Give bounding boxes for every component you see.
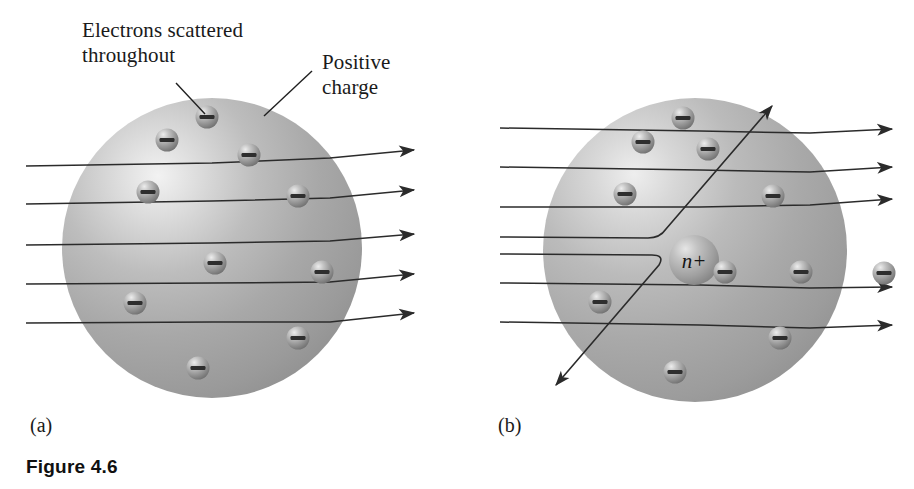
electron xyxy=(311,261,334,284)
electrons-scattered-label: Electrons scattered throughout xyxy=(82,18,243,68)
electron xyxy=(287,327,310,350)
electron xyxy=(672,107,695,130)
electron xyxy=(589,291,612,314)
electron xyxy=(697,138,720,161)
nucleus-group: n+ xyxy=(669,235,719,285)
electron xyxy=(187,357,210,380)
panel-label-b: (b) xyxy=(498,414,521,437)
electron xyxy=(238,144,261,167)
electron xyxy=(714,261,737,284)
panel-b-group: n+ xyxy=(500,98,896,402)
figure-canvas: n+ xyxy=(0,0,914,489)
electron xyxy=(124,292,147,315)
electron xyxy=(614,183,637,206)
electron xyxy=(137,181,160,204)
figure-caption: Figure 4.6 xyxy=(26,456,118,478)
electron xyxy=(196,106,219,129)
positive-leader-line xyxy=(264,71,312,116)
electron xyxy=(632,131,655,154)
electron xyxy=(664,361,687,384)
electron xyxy=(873,262,896,285)
positive-charge-sphere-a xyxy=(62,98,362,398)
panel-a-group xyxy=(26,71,414,398)
nucleus-label: n+ xyxy=(682,249,707,273)
figure-root: n+ xyxy=(0,0,914,489)
electron xyxy=(204,252,227,275)
electron xyxy=(769,327,792,350)
panel-label-a: (a) xyxy=(30,414,52,437)
electron xyxy=(790,261,813,284)
electron xyxy=(156,129,179,152)
positive-charge-label: Positive charge xyxy=(322,50,390,100)
electron xyxy=(762,185,785,208)
electron xyxy=(287,185,310,208)
